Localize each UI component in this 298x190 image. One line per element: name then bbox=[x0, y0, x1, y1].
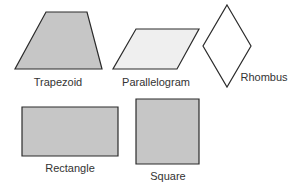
shape-trapezoid: Trapezoid bbox=[15, 12, 102, 88]
parallelogram-shape bbox=[113, 29, 199, 69]
shape-rectangle: Rectangle bbox=[22, 107, 118, 174]
shape-square: Square bbox=[136, 99, 199, 182]
shape-rhombus: Rhombus bbox=[203, 5, 288, 87]
rhombus-label: Rhombus bbox=[240, 71, 288, 83]
square-label: Square bbox=[150, 170, 185, 182]
shape-parallelogram: Parallelogram bbox=[113, 29, 199, 88]
trapezoid-label: Trapezoid bbox=[34, 76, 83, 88]
quadrilaterals-diagram: Trapezoid Parallelogram Rhombus Rectangl… bbox=[0, 0, 298, 190]
rectangle-label: Rectangle bbox=[45, 162, 95, 174]
rectangle-shape bbox=[22, 107, 118, 156]
trapezoid-shape bbox=[15, 12, 102, 69]
square-shape bbox=[136, 99, 199, 164]
parallelogram-label: Parallelogram bbox=[122, 76, 190, 88]
